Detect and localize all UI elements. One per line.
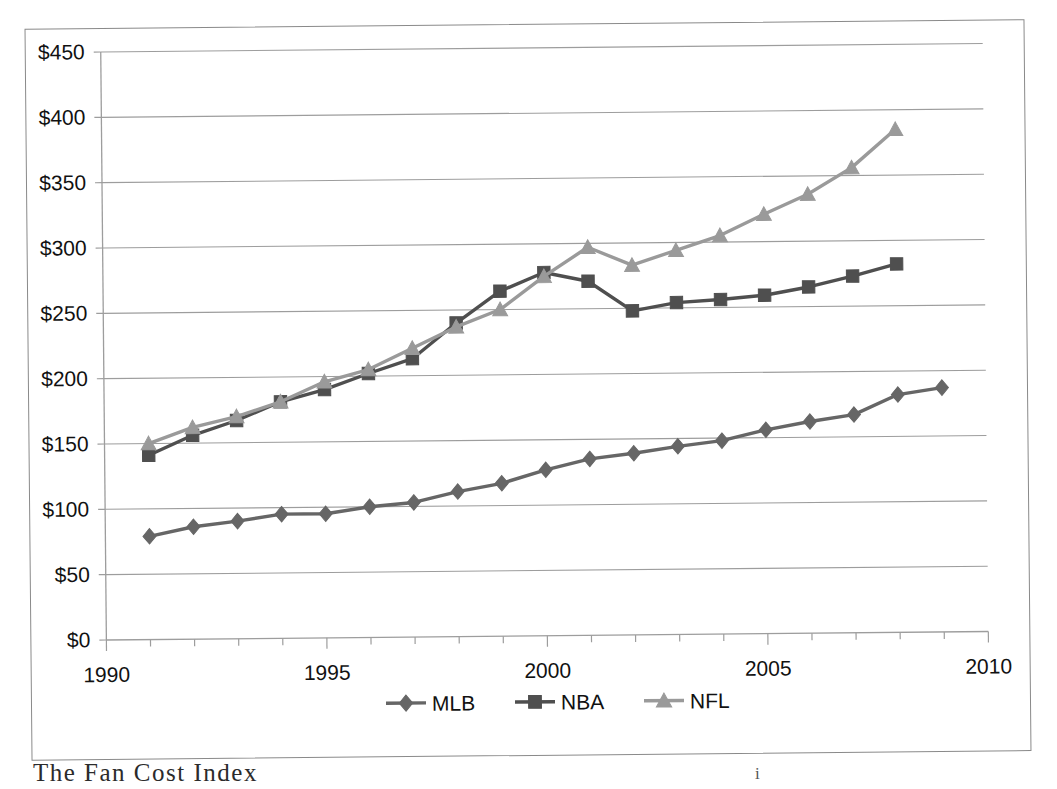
legend-item-mlb[interactable]: MLB (386, 691, 475, 715)
datapoint-mlb-2008 (891, 387, 904, 403)
datapoint-mlb-2009 (935, 380, 948, 396)
datapoint-mlb-1994 (275, 506, 288, 522)
legend-marker-square-icon (529, 695, 542, 708)
datapoint-mlb-2004 (715, 433, 728, 449)
legend-item-nba[interactable]: NBA (515, 690, 604, 714)
y-axis-label-100: $100 (42, 497, 89, 520)
datapoint-nba-2008 (890, 258, 903, 271)
gridline-400 (101, 109, 983, 117)
datapoint-nba-2004 (714, 293, 727, 306)
datapoint-nba-2005 (758, 289, 771, 302)
chart-svg: $0$50$100$150$200$250$300$350$400$450199… (0, 0, 1057, 789)
datapoint-nba-1999 (494, 285, 507, 298)
datapoint-nba-2007 (846, 270, 859, 283)
datapoint-mlb-1999 (495, 475, 508, 491)
caption-footnote-mark: i (755, 764, 760, 784)
x-axis-label-2010: 2010 (965, 654, 1012, 677)
datapoint-mlb-1996 (363, 499, 376, 515)
legend-label-nfl: NFL (690, 689, 730, 712)
datapoint-mlb-2000 (539, 462, 552, 478)
datapoint-mlb-1995 (319, 506, 332, 522)
scanned-page-wrapper: $0$50$100$150$200$250$300$350$400$450199… (0, 0, 1057, 789)
datapoint-mlb-1998 (451, 484, 464, 500)
figure-caption: The Fan Cost Index (33, 764, 258, 787)
figure-caption-strip: The Fan Cost Index i (0, 764, 1057, 789)
gridline-450 (101, 44, 983, 52)
gridline-350 (102, 174, 984, 182)
datapoint-nba-2002 (626, 305, 639, 318)
y-axis-label-250: $250 (40, 301, 87, 324)
y-axis (101, 52, 107, 640)
legend-marker-diamond-icon (399, 695, 413, 711)
datapoint-nfl-2001 (580, 240, 595, 254)
datapoint-mlb-2005 (759, 422, 772, 438)
x-axis-label-1990: 1990 (83, 663, 130, 686)
legend-label-nba: NBA (561, 690, 604, 713)
line-chart: $0$50$100$150$200$250$300$350$400$450199… (0, 0, 1057, 789)
datapoint-mlb-2006 (803, 414, 816, 430)
gridline-100 (105, 501, 987, 509)
y-axis-label-150: $150 (42, 432, 89, 455)
y-axis-label-50: $50 (55, 563, 90, 586)
datapoint-nfl-2008 (888, 122, 903, 136)
datapoint-mlb-1992 (187, 519, 200, 535)
y-axis-label-200: $200 (41, 367, 88, 390)
gridline-300 (103, 240, 985, 248)
datapoint-nba-2006 (802, 281, 815, 294)
datapoint-mlb-1993 (231, 513, 244, 529)
series-mlb (142, 380, 950, 544)
datapoint-mlb-1997 (407, 495, 420, 511)
datapoint-nba-2001 (582, 275, 595, 288)
series-nba (141, 258, 905, 462)
y-axis-label-400: $400 (39, 105, 86, 128)
datapoint-mlb-2002 (627, 445, 640, 461)
y-axis-label-0: $0 (67, 628, 91, 651)
legend-item-nfl[interactable]: NFL (644, 689, 730, 713)
datapoint-nfl-1997 (405, 341, 420, 355)
y-axis-label-450: $450 (38, 40, 85, 63)
datapoint-mlb-2003 (671, 439, 684, 455)
x-axis-label-2000: 2000 (524, 659, 571, 682)
legend-label-mlb: MLB (432, 691, 475, 714)
x-axis-label-1995: 1995 (304, 661, 351, 684)
datapoint-nba-1991 (142, 449, 155, 462)
x-axis-label-2005: 2005 (745, 656, 792, 679)
datapoint-nfl-2004 (712, 228, 727, 242)
gridline-150 (104, 436, 986, 444)
datapoint-mlb-2007 (847, 407, 860, 423)
datapoint-mlb-1991 (143, 529, 156, 545)
series-nfl (138, 122, 906, 450)
gridline-200 (104, 370, 986, 378)
datapoint-mlb-2001 (583, 451, 596, 467)
y-axis-label-300: $300 (40, 236, 87, 259)
y-axis-label-350: $350 (39, 171, 86, 194)
datapoint-nba-2003 (670, 296, 683, 309)
gridline-250 (103, 305, 985, 313)
gridline-50 (106, 566, 988, 574)
datapoint-nfl-2006 (800, 187, 815, 201)
